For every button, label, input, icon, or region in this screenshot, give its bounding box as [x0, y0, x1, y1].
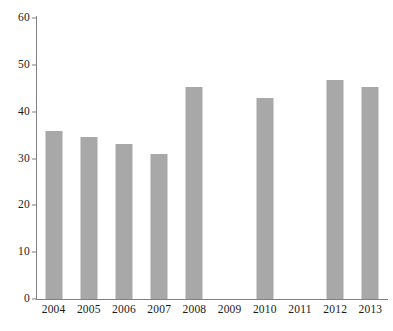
bars-layer: 2004200520062007200820092010201120122013 [36, 0, 388, 331]
y-axis-tick-label: 40 [4, 106, 30, 118]
y-axis-tick-label: 30 [4, 153, 30, 165]
x-axis-tick-label-2006: 2006 [106, 304, 141, 316]
x-axis-tick-label-2008: 2008 [177, 304, 212, 316]
bar-slot [36, 18, 71, 299]
bar-2010 [256, 98, 273, 299]
x-axis-tick-label-2005: 2005 [71, 304, 106, 316]
x-axis-tick-label-2007: 2007 [142, 304, 177, 316]
bar-2004 [45, 131, 62, 299]
bar-slot [142, 18, 177, 299]
y-axis-tick-label: 50 [4, 59, 30, 71]
bar-slot [106, 18, 141, 299]
x-axis-tick-label-2010: 2010 [247, 304, 282, 316]
x-axis-tick-label-2004: 2004 [36, 304, 71, 316]
bar-slot [353, 18, 388, 299]
y-axis-ticks: 0102030405060 [0, 0, 30, 331]
bar-2006 [115, 144, 132, 299]
bar-2007 [151, 154, 168, 299]
bar-chart: 0102030405060 20042005200620072008200920… [0, 0, 393, 331]
bar-slot [247, 18, 282, 299]
y-axis-tick-label: 10 [4, 246, 30, 258]
bar-2005 [80, 137, 97, 299]
x-axis-tick-label-2011: 2011 [282, 304, 317, 316]
x-axis-tick-label-2012: 2012 [318, 304, 353, 316]
y-axis-tick-label: 20 [4, 200, 30, 212]
x-axis-tick-label-2013: 2013 [353, 304, 388, 316]
bar-slot [212, 18, 247, 299]
x-axis-tick-label-2009: 2009 [212, 304, 247, 316]
bar-2008 [186, 87, 203, 299]
bar-2013 [362, 87, 379, 299]
bar-slot [318, 18, 353, 299]
bar-slot [71, 18, 106, 299]
y-axis-tick-label: 0 [4, 293, 30, 305]
bar-slot [177, 18, 212, 299]
bar-slot [282, 18, 317, 299]
y-axis-tick-label: 60 [4, 12, 30, 24]
bar-2012 [327, 80, 344, 299]
